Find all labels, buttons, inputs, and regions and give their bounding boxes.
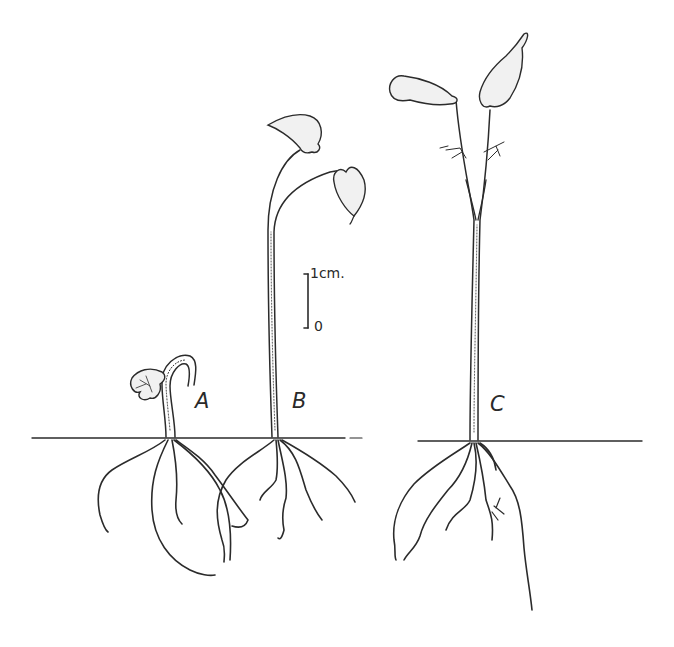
scale-bar <box>304 274 308 328</box>
seedling-b <box>217 115 365 562</box>
seedling-a <box>98 355 248 575</box>
seedling-c <box>390 33 532 610</box>
scale-bottom-label: 0 <box>314 318 323 334</box>
seedling-figure: 1cm. 0 A B C <box>0 0 674 647</box>
soil-line <box>32 438 642 441</box>
signature-mark <box>492 498 504 520</box>
scale-top-label: 1cm. <box>310 265 345 281</box>
specimen-label-c: C <box>490 392 505 416</box>
specimen-label-b: B <box>292 389 306 413</box>
seedling-drawing <box>0 0 674 647</box>
specimen-label-a: A <box>195 389 209 413</box>
